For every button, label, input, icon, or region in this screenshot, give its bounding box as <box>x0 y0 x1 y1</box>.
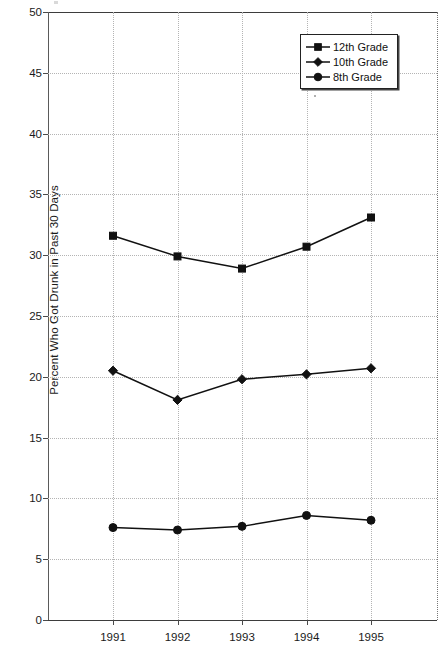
x-tick-mark <box>371 620 372 625</box>
data-point-marker-square <box>110 232 117 239</box>
data-point-marker-diamond <box>173 395 182 404</box>
data-point-marker-diamond <box>314 57 323 66</box>
data-point-marker-diamond <box>108 366 117 375</box>
series-12th-grade <box>110 214 375 272</box>
y-tick-label: 15 <box>16 432 42 444</box>
y-tick-label: 35 <box>16 188 42 200</box>
legend-label: 8th Grade <box>331 71 382 83</box>
legend-marker-diamond-icon <box>305 56 331 68</box>
legend-label: 12th Grade <box>331 41 388 53</box>
legend: 12th Grade10th Grade8th Grade <box>300 34 398 89</box>
x-tick-label: 1991 <box>100 631 126 643</box>
series-line <box>113 218 371 269</box>
y-tick-label: 40 <box>16 128 42 140</box>
x-tick-label: 1993 <box>229 631 255 643</box>
x-tick-label: 1995 <box>358 631 384 643</box>
scan-artifact-top <box>54 1 58 4</box>
series-plot <box>48 12 437 620</box>
x-tick-mark <box>178 620 179 625</box>
data-point-marker-circle <box>109 524 117 532</box>
data-point-marker-circle <box>303 511 311 519</box>
data-point-marker-diamond <box>302 370 311 379</box>
x-tick-label: 1994 <box>294 631 320 643</box>
data-point-marker-circle <box>367 516 375 524</box>
plot-frame-right <box>437 12 438 620</box>
legend-entry: 8th Grade <box>305 69 392 84</box>
data-point-marker-square <box>315 43 322 50</box>
y-tick-label: 10 <box>16 492 42 504</box>
y-tick-mark <box>43 620 48 621</box>
data-point-marker-circle <box>174 526 182 534</box>
y-tick-label: 25 <box>16 310 42 322</box>
y-tick-label: 45 <box>16 67 42 79</box>
x-tick-mark <box>307 620 308 625</box>
y-tick-label: 20 <box>16 371 42 383</box>
data-point-marker-square <box>368 214 375 221</box>
legend-marker-square-icon <box>305 41 331 53</box>
data-point-marker-circle <box>238 522 246 530</box>
data-point-marker-square <box>174 253 181 260</box>
x-tick-mark <box>113 620 114 625</box>
x-tick-label: 1992 <box>165 631 191 643</box>
legend-entry: 12th Grade <box>305 39 392 54</box>
series-8th-grade <box>109 511 375 534</box>
y-tick-label: 50 <box>16 6 42 18</box>
x-tick-mark <box>242 620 243 625</box>
legend-entry: 10th Grade <box>305 54 392 69</box>
data-point-marker-diamond <box>237 375 246 384</box>
legend-label: 10th Grade <box>331 56 388 68</box>
y-tick-label: 0 <box>16 614 42 626</box>
data-point-marker-square <box>303 243 310 250</box>
series-10th-grade <box>108 364 375 405</box>
legend-marker-circle-icon <box>305 71 331 83</box>
data-point-marker-diamond <box>366 364 375 373</box>
y-axis-tick-labels: 50454035302520151050 <box>14 0 42 653</box>
data-point-marker-square <box>239 265 246 272</box>
data-point-marker-circle <box>314 73 322 81</box>
y-tick-label: 5 <box>16 553 42 565</box>
plot-area <box>48 12 437 620</box>
line-chart: Percent Who Got Drunk in Past 30 Days 50… <box>0 0 447 653</box>
y-tick-label: 30 <box>16 249 42 261</box>
